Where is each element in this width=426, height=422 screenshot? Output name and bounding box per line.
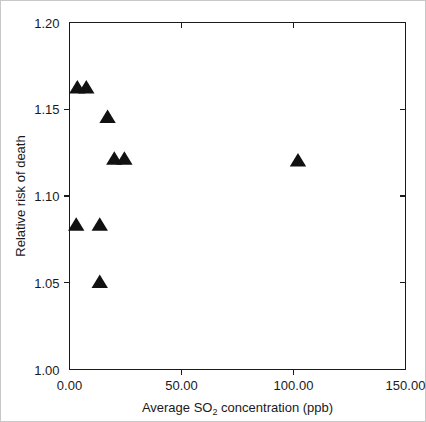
y-tick-label: 1.00 [34, 363, 59, 378]
x-tick-label: 50.00 [165, 378, 198, 393]
y-tick-label: 1.05 [34, 276, 59, 291]
y-axis-title: Relative risk of death [13, 135, 28, 256]
y-tick-label: 1.15 [34, 102, 59, 117]
chart-figure: 0.0050.00100.00150.001.001.051.101.151.2… [0, 0, 426, 422]
x-tick-label: 0.00 [57, 378, 82, 393]
data-point-marker [68, 217, 84, 231]
plot-frame [70, 23, 406, 370]
data-point-marker [99, 110, 115, 124]
y-tick-label: 1.20 [34, 16, 59, 31]
x-axis-title: Average SO2 concentration (ppb) [142, 400, 333, 418]
x-tick-label: 150.00 [386, 378, 426, 393]
y-tick-label: 1.10 [34, 189, 59, 204]
data-point-marker [92, 217, 108, 231]
scatter-plot: 0.0050.00100.00150.001.001.051.101.151.2… [1, 1, 426, 422]
data-point-marker [92, 274, 108, 288]
data-point-marker [116, 151, 132, 165]
x-tick-label: 100.00 [274, 378, 314, 393]
data-point-marker [290, 153, 306, 167]
